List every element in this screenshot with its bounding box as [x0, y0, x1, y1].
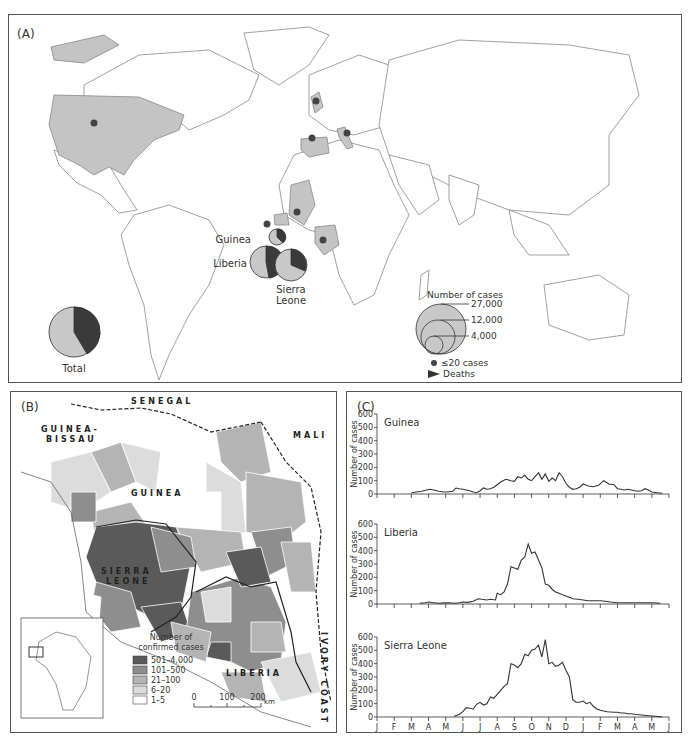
scale-unit: km: [264, 698, 275, 706]
ytick-label: 0: [368, 713, 373, 722]
month-label: J: [478, 723, 481, 732]
ytick-label: 300: [358, 450, 373, 459]
pie-total: [49, 307, 100, 357]
label-guinea-bissau-1: GUINEA-: [41, 425, 100, 434]
month-label: F: [392, 723, 397, 732]
legend-title-2: confirmed cases: [138, 643, 203, 652]
panel-b-label: (B): [21, 400, 39, 414]
ytick-label: 200: [358, 686, 373, 695]
month-label: F: [598, 723, 603, 732]
y-axis-label: Number of cases: [350, 643, 359, 711]
world-map-svg: Guinea Liberia Sierra Leone Total Number…: [9, 15, 683, 384]
series-line: [454, 640, 662, 717]
dot-nigeria: [320, 237, 327, 244]
label-guinea: Guinea: [216, 234, 251, 245]
ytick-label: 400: [358, 437, 373, 446]
label-guinea: GUINEA: [131, 489, 183, 498]
ytick-label: 500: [358, 533, 373, 542]
australia: [544, 275, 629, 340]
alaska: [51, 35, 119, 63]
ytick-label: 600: [358, 410, 373, 419]
month-label: J: [461, 723, 464, 732]
dot-spain: [309, 135, 316, 142]
month-label: N: [546, 723, 552, 732]
legend-class-1: 501–4,000: [151, 656, 193, 665]
label-total: Total: [61, 363, 85, 374]
y-axis-label: Number of cases: [350, 530, 359, 598]
spain: [301, 137, 329, 157]
pie-sierra-leone: [275, 249, 307, 281]
dot-senegal: [264, 221, 271, 228]
chart-title: Guinea: [384, 417, 419, 428]
ytick-label: 100: [358, 700, 373, 709]
pie-guinea: [269, 229, 286, 245]
month-label: A: [632, 723, 638, 732]
legend-class-2: 101–500: [151, 666, 186, 675]
legend-dot-icon: [431, 360, 437, 366]
y-axis-label: Number of cases: [350, 420, 359, 488]
legend-12000: 12,000: [471, 315, 503, 325]
month-label: A: [426, 723, 432, 732]
month-label: M: [648, 723, 655, 732]
legend-small: ≤20 cases: [441, 358, 489, 368]
label-mali: MALI: [293, 431, 327, 440]
legend-title-1: Number of: [150, 633, 193, 642]
chart-title: Liberia: [384, 527, 418, 538]
chart-title: Sierra Leone: [384, 640, 447, 651]
ytick-label: 100: [358, 477, 373, 486]
scale-0: 0: [191, 693, 196, 702]
month-label: J: [667, 723, 670, 732]
label-liberia: Liberia: [213, 258, 247, 269]
size-legend: [416, 304, 469, 354]
dot-italy: [344, 130, 351, 137]
month-label: M: [442, 723, 449, 732]
month-label: S: [512, 723, 517, 732]
ytick-label: 400: [358, 660, 373, 669]
ytick-label: 400: [358, 547, 373, 556]
scale-100: 100: [219, 693, 234, 702]
ytick-label: 200: [358, 573, 373, 582]
legend-deaths: Deaths: [443, 369, 475, 379]
ytick-label: 0: [368, 600, 373, 609]
month-label: D: [563, 723, 569, 732]
label-leone: LEONE: [106, 577, 151, 586]
dot-uk: [313, 98, 320, 105]
africa-inset: [21, 618, 103, 718]
ytick-label: 500: [358, 646, 373, 655]
ytick-label: 0: [368, 490, 373, 499]
legend-class-5: 1–5: [151, 696, 165, 705]
ytick-label: 300: [358, 560, 373, 569]
month-label: A: [494, 723, 500, 732]
month-label: J: [375, 723, 378, 732]
ytick-label: 200: [358, 463, 373, 472]
legend-deaths-wedge-icon: [428, 370, 440, 378]
ytick-label: 300: [358, 673, 373, 682]
label-guinea-bissau-2: BISSAU: [46, 435, 97, 444]
ytick-label: 600: [358, 633, 373, 642]
ytick-label: 500: [358, 423, 373, 432]
legend-27000: 27,000: [471, 299, 503, 309]
label-liberia: LIBERIA: [226, 669, 282, 678]
month-label: M: [614, 723, 621, 732]
europe: [309, 55, 389, 135]
ytick-label: 600: [358, 520, 373, 529]
legend-4000: 4,000: [471, 331, 497, 341]
senegal: [274, 213, 289, 225]
series-line: [420, 544, 661, 603]
panel-a-world-map: (A): [8, 14, 682, 383]
label-senegal: SENEGAL: [131, 397, 193, 406]
month-label: J: [581, 723, 584, 732]
legend-class-4: 6–20: [151, 686, 170, 695]
legend-class-3: 21–100: [151, 676, 180, 685]
epi-curves-svg: 0100200300400500600GuineaNumber of cases…: [347, 392, 683, 734]
panel-c-epi-curves: (C) 0100200300400500600GuineaNumber of c…: [346, 391, 682, 733]
label-ivory-coast: IVORY COAST: [319, 632, 328, 725]
dot-usa: [91, 120, 98, 127]
south-america: [121, 205, 224, 380]
month-label: O: [528, 723, 534, 732]
label-sierra-2: Leone: [276, 295, 306, 306]
label-sierra-1: Sierra: [276, 284, 305, 295]
west-africa-svg: SENEGAL GUINEA- BISSAU MALI GUINEA SIERR…: [11, 392, 338, 734]
africa: [279, 140, 409, 305]
month-label: M: [408, 723, 415, 732]
